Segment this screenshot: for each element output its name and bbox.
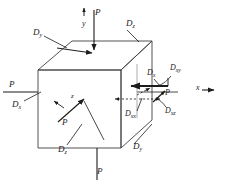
dy-top-arrow xyxy=(57,48,92,53)
component-label-dx-right: Dx xyxy=(147,69,155,78)
component-sub-dxx: xx xyxy=(131,113,136,119)
left-load-group xyxy=(3,92,41,101)
dz-top-leader-group xyxy=(127,30,139,42)
dashed-vectors-group xyxy=(115,88,160,99)
component-label-dxx: Dxx xyxy=(125,110,136,119)
component-label-dz-top: Dz xyxy=(126,19,135,29)
load-label-top: P xyxy=(95,8,101,17)
cube-right-face xyxy=(121,41,152,148)
component-sub-dx-right: x xyxy=(153,72,155,78)
interior-load-leader xyxy=(84,101,104,140)
dxx-dashed-diagonal xyxy=(137,88,150,95)
component-sub-dy-bottom: y xyxy=(140,146,142,152)
component-label-dxy: Dxy xyxy=(170,64,181,73)
x-axis-group xyxy=(137,90,214,92)
dxx-leader-group xyxy=(137,98,142,111)
cube-top-face xyxy=(38,41,152,70)
cube-body xyxy=(38,41,152,148)
component-label-dx-left: Dx xyxy=(12,100,21,110)
cube-front-face xyxy=(38,70,121,148)
axis-label-z: z xyxy=(71,93,74,100)
dx-right-vector-group xyxy=(131,78,168,86)
load-label-right: P xyxy=(165,89,170,97)
component-label-dz-bottom: Dz xyxy=(58,145,67,155)
component-sub-dxy: xy xyxy=(176,67,181,73)
load-label-interior: P xyxy=(62,118,68,127)
z-axis-arrow xyxy=(54,101,64,108)
component-sub-dz-bottom: z xyxy=(65,149,67,155)
axis-label-y: y xyxy=(82,20,86,28)
axis-label-x: x xyxy=(196,84,200,92)
component-sub-dxz: xz xyxy=(171,110,176,116)
component-label-dy-top: Dy xyxy=(33,28,42,38)
stress-element-diagram: y x z P P P P P Dy Dz Dx Dz Dy Dx Dxy Dx… xyxy=(0,0,225,193)
load-label-bottom: P xyxy=(97,167,103,176)
component-label-dy-bottom: Dy xyxy=(133,142,142,152)
dz-top-leader xyxy=(127,30,139,42)
component-sub-dz-top: z xyxy=(133,23,135,29)
component-label-dxz: Dxz xyxy=(165,107,175,116)
load-label-left: P xyxy=(9,80,15,89)
component-sub-dx-left: x xyxy=(19,104,21,110)
component-sub-dy-top: y xyxy=(40,32,42,38)
dz-bottom-leader xyxy=(67,124,82,145)
dz-bottom-leader-group xyxy=(67,124,82,145)
dxx-leader xyxy=(137,98,142,111)
dy-top-leader xyxy=(44,36,67,48)
